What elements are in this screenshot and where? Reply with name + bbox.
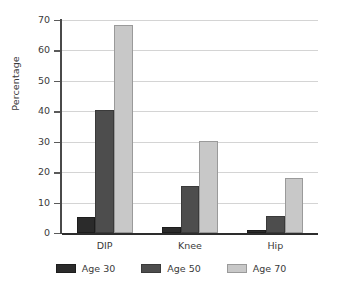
y-tick-mark: [54, 172, 60, 173]
bar: [199, 141, 218, 233]
bar: [285, 178, 304, 233]
legend-swatch: [56, 264, 76, 273]
y-tick-mark: [54, 203, 60, 204]
legend: Age 30Age 50Age 70: [0, 263, 342, 274]
bar-group: [162, 20, 218, 233]
y-tick-mark: [54, 142, 60, 143]
bar-group: [77, 20, 133, 233]
bar-group: [247, 20, 303, 233]
x-tick-label: Knee: [178, 240, 202, 251]
bar: [114, 25, 133, 233]
legend-item[interactable]: Age 50: [141, 263, 200, 274]
y-tick-label: 60: [14, 45, 50, 55]
legend-swatch: [227, 264, 247, 273]
bar: [95, 110, 114, 233]
y-tick-label: 50: [14, 76, 50, 86]
bar: [77, 217, 96, 233]
y-tick-label: 20: [14, 167, 50, 177]
y-tick-label: 70: [14, 15, 50, 25]
bar: [162, 227, 181, 233]
legend-label: Age 70: [253, 263, 286, 274]
y-tick-mark: [54, 111, 60, 112]
y-tick-label: 0: [14, 228, 50, 238]
bar: [247, 230, 266, 233]
y-tick-mark: [54, 233, 60, 234]
legend-label: Age 30: [82, 263, 115, 274]
bar: [266, 216, 285, 233]
bar: [181, 186, 200, 233]
y-tick-label: 10: [14, 198, 50, 208]
legend-item[interactable]: Age 70: [227, 263, 286, 274]
y-axis-tick-labels: 010203040506070: [0, 0, 50, 289]
bar-chart: Percentage 010203040506070 DIPKneeHip Ag…: [0, 0, 342, 289]
y-tick-label: 40: [14, 106, 50, 116]
y-tick-mark: [54, 50, 60, 51]
legend-label: Age 50: [167, 263, 200, 274]
legend-swatch: [141, 264, 161, 273]
plot-area: [62, 20, 318, 233]
x-tick-label: Hip: [267, 240, 283, 251]
legend-item[interactable]: Age 30: [56, 263, 115, 274]
x-tick-label: DIP: [97, 240, 113, 251]
y-tick-mark: [54, 81, 60, 82]
y-tick-label: 30: [14, 137, 50, 147]
y-tick-mark: [54, 20, 60, 21]
axis-baseline: [62, 233, 318, 235]
